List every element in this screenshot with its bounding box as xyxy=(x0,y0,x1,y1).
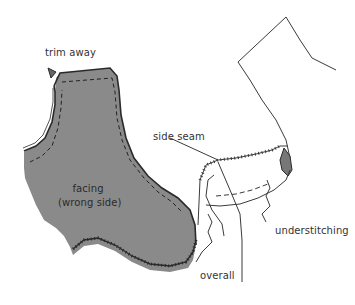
label-facing-line1: facing xyxy=(58,182,118,196)
label-trim-away: trim away xyxy=(45,47,96,58)
facing-piece xyxy=(23,68,196,272)
trim-away-marker-icon xyxy=(48,68,56,78)
label-understitching: understitching xyxy=(275,225,349,236)
label-overall: overall xyxy=(200,270,235,281)
label-facing: facing (wrong side) xyxy=(58,182,118,210)
diagram-illustration xyxy=(0,0,355,305)
sewing-diagram: trim away side seam facing (wrong side) … xyxy=(0,0,355,305)
label-facing-line2: (wrong side) xyxy=(58,196,118,210)
label-side-seam: side seam xyxy=(153,131,205,142)
